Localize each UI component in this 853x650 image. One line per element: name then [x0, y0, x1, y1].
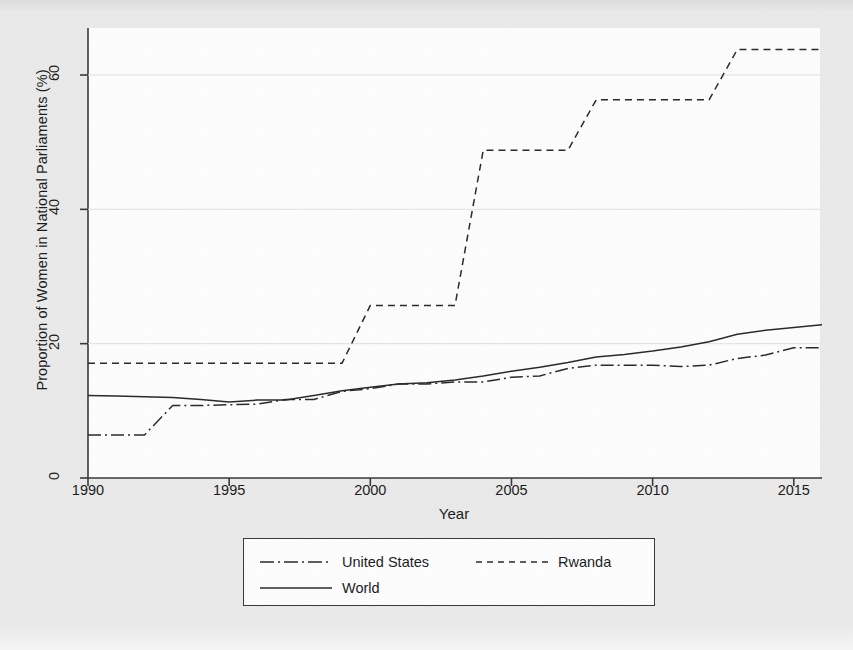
x-tick-label: 2000: [335, 482, 405, 498]
x-tick-label: 2015: [759, 482, 829, 498]
y-tick-label: 20: [46, 322, 62, 362]
series-line-rwanda: [88, 49, 822, 363]
series-line-united-states: [88, 348, 822, 435]
data-series-layer: [88, 49, 822, 435]
legend-line-dash-dot-icon: [260, 555, 332, 569]
legend-item-rwanda: Rwanda: [476, 551, 611, 573]
y-tick-label: 40: [46, 187, 62, 227]
y-tick-label: 60: [46, 53, 62, 93]
legend-key-dashed-icon: [476, 555, 548, 569]
x-axis-title: Year: [88, 505, 820, 522]
x-tick-label: 2005: [476, 482, 546, 498]
legend-label-world: World: [342, 580, 380, 596]
legend-key-dash-dot-icon: [260, 555, 332, 569]
legend-item-united-states: United States: [260, 551, 429, 573]
chart-figure: Proportion of Women in National Parliame…: [0, 0, 853, 650]
legend-key-solid-icon: [260, 581, 332, 595]
legend-line-dashed-icon: [476, 555, 548, 569]
chart-legend: United States Rwanda World: [243, 538, 655, 606]
legend-line-solid-icon: [260, 581, 332, 595]
x-tick-label: 1990: [53, 482, 123, 498]
legend-label-united-states: United States: [342, 554, 429, 570]
y-axis-ticks: [80, 75, 88, 478]
faint-gridlines: [88, 75, 822, 344]
x-tick-label: 2010: [618, 482, 688, 498]
legend-label-rwanda: Rwanda: [558, 554, 611, 570]
legend-item-world: World: [260, 577, 380, 599]
x-tick-label: 1995: [194, 482, 264, 498]
